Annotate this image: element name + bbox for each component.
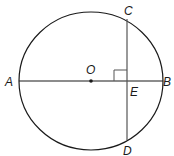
label-d: D [123,144,132,156]
label-o: O [86,63,95,77]
right-angle-marker [114,70,127,81]
geometry-diagram: A B C D E O [0,0,174,156]
label-e: E [130,85,139,99]
label-c: C [124,4,133,18]
center-point-o [89,79,93,83]
label-a: A [4,75,13,89]
label-b: B [163,75,171,89]
